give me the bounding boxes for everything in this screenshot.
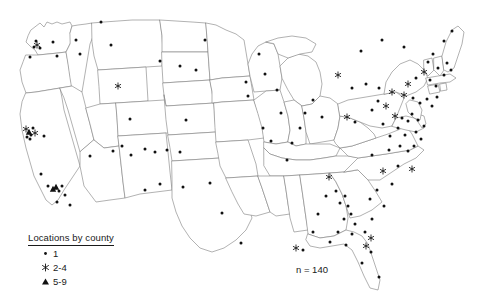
marker-dot (436, 96, 439, 99)
state-montana (92, 20, 163, 70)
marker-dot (431, 105, 434, 108)
marker-dot (443, 40, 446, 43)
asterisk-marker-icon (38, 263, 53, 272)
marker-dot (69, 204, 72, 207)
legend-item-2: 2-4 (28, 261, 132, 274)
marker-dot (378, 87, 381, 90)
marker-dot (354, 223, 357, 226)
state-arizona (80, 140, 125, 202)
legend-label-2: 2-4 (53, 261, 67, 274)
state-maine (442, 26, 464, 72)
marker-dot (403, 46, 406, 49)
state-oklahoma (168, 132, 220, 161)
marker-asterisk (293, 245, 298, 251)
us-county-location-map: Locations by county 1 2-4 (0, 0, 486, 305)
marker-asterisk (335, 72, 340, 78)
marker-dot (351, 87, 354, 90)
state-connecticut (428, 84, 440, 94)
state-nebraska (163, 80, 214, 106)
marker-asterisk (409, 166, 414, 172)
marker-dot (432, 53, 435, 56)
triangle-marker-icon (38, 277, 53, 286)
marker-dot (383, 205, 386, 208)
state-oregon (20, 52, 72, 93)
marker-dot (381, 39, 384, 42)
marker-dot (420, 138, 423, 141)
state-south-dakota (162, 52, 210, 83)
marker-dot (64, 194, 67, 197)
marker-asterisk (368, 235, 373, 241)
state-iowa (210, 76, 254, 103)
sample-size-annotation: n = 140 (296, 263, 328, 276)
marker-dot (302, 249, 305, 252)
marker-dot (360, 50, 363, 53)
state-new-mexico (118, 133, 172, 198)
marker-dot (364, 231, 367, 234)
legend: Locations by county 1 2-4 (28, 227, 132, 288)
marker-dot (240, 242, 243, 245)
state-minnesota (206, 23, 250, 80)
marker-dot (371, 218, 374, 221)
marker-dot (365, 83, 368, 86)
legend-label-1: 1 (53, 247, 58, 260)
marker-dot (412, 97, 415, 100)
marker-dot (376, 189, 379, 192)
state-washington (26, 22, 72, 55)
state-rhode-island (440, 83, 447, 91)
legend-title: Locations by county (28, 231, 114, 246)
legend-item-3: 5-9 (28, 275, 132, 288)
state-new-york (384, 60, 428, 96)
legend-item-1: 1 (28, 247, 132, 260)
marker-dot (391, 183, 394, 186)
state-massachusetts (426, 74, 456, 85)
legend-label-3: 5-9 (53, 275, 67, 288)
state-michigan (280, 54, 322, 106)
state-florida (306, 230, 380, 290)
state-north-dakota (160, 20, 208, 52)
state-wyoming (98, 67, 148, 104)
marker-dot (426, 98, 429, 101)
dot-marker-icon (38, 250, 53, 257)
